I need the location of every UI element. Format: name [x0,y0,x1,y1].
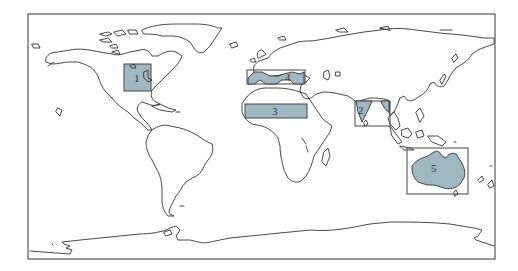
south-america-coastline [146,125,213,216]
australia-coastline [412,151,494,196]
eurasia-coastline [250,26,494,150]
world-map: 1 4 3 2 5 [0,0,518,271]
region-3[interactable]: 3 [245,104,307,118]
region-5-label: 5 [431,162,437,174]
region-1-label: 1 [134,72,140,84]
region-1[interactable]: 1 [124,64,152,91]
region-2-land-east [381,101,389,112]
region-3-label: 3 [272,105,278,117]
region-2[interactable]: 2 [355,101,390,126]
region-4-land [248,72,304,84]
africa-coastline [242,88,332,182]
region-2-label: 2 [358,104,364,116]
antarctica-coastline [30,222,494,254]
australia-landmass [412,151,465,189]
region-4-label: 4 [285,71,291,83]
region-4[interactable]: 4 [247,70,305,84]
